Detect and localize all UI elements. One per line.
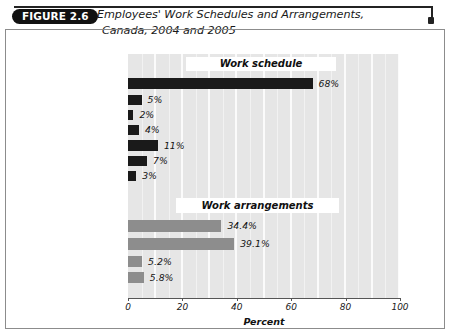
gridline-minor [385,54,386,298]
figure-title: Employees' Work Schedules and Arrangemen… [97,7,427,38]
bar [128,238,234,250]
section-label-work-arrangements: Work arrangements [176,198,339,213]
gridline-major [290,54,292,298]
bar [128,110,133,120]
x-axis-tick-label: 20 [177,302,188,312]
gridline-major [371,54,373,298]
header-rule-hook-cap [428,17,434,24]
gridline-minor [223,54,224,298]
x-axis-title: Percent [128,316,400,327]
x-axis-tick [237,298,238,301]
bar-value-label: 5.2% [148,256,172,267]
gridline-major [317,54,319,298]
x-axis-tick-label: 100 [391,302,408,312]
bar-value-label: 7% [153,155,168,166]
gridline-major [208,54,210,298]
bar-value-label: 3% [142,170,157,181]
gridline-major [235,54,237,298]
gridline-minor [277,54,278,298]
section-label-work-schedule: Work schedule [186,57,336,71]
x-axis-tick-label: 0 [125,302,131,312]
x-axis-tick-label: 60 [285,302,296,312]
gridline-major [181,54,183,298]
bar-value-label: 39.1% [240,238,270,249]
x-axis-tick [346,298,347,301]
gridline-major [263,54,265,298]
bar [128,171,136,181]
gridline-major [398,54,399,298]
gridline-minor [358,54,359,298]
x-axis-tick-label: 80 [340,302,351,312]
bar-value-label: 11% [164,140,185,151]
bar [128,78,313,89]
figure-title-line-2: Canada, 2004 and 2005 [97,23,427,39]
bar [128,140,158,151]
x-axis-tick [128,298,129,301]
x-axis-tick [291,298,292,301]
bar-value-label: 68% [319,78,340,89]
figure-number-badge: FIGURE 2.6 [12,9,98,24]
bar-value-label: 5.8% [150,272,174,283]
bar [128,220,221,232]
bar [128,272,144,283]
bar-value-label: 34.4% [227,220,257,231]
gridline-minor [304,54,305,298]
gridline-minor [331,54,332,298]
bar [128,156,147,166]
figure-root: FIGURE 2.6 Employees' Work Schedules and… [0,0,454,335]
bar [128,125,139,135]
x-axis-line [128,298,400,299]
bar-value-label: 4% [145,124,160,135]
bar-value-label: 2% [139,109,154,120]
bar [128,256,142,267]
bar-value-label: 5% [148,94,163,105]
bar [128,95,142,105]
gridline-minor [250,54,251,298]
x-axis-tick [400,298,401,301]
x-axis-tick [182,298,183,301]
x-axis-tick-label: 40 [231,302,242,312]
figure-title-line-1: Employees' Work Schedules and Arrangemen… [97,8,364,21]
gridline-major [344,54,346,298]
gridline-minor [196,54,197,298]
